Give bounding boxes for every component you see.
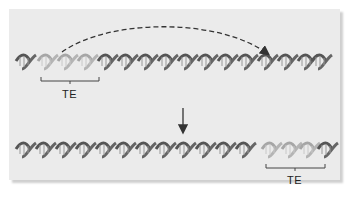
top-te-bracket <box>41 77 99 84</box>
bottom-te-label: TE <box>287 174 302 186</box>
top-dna-strand <box>16 55 332 69</box>
bottom-dna-strand <box>16 143 338 157</box>
top-te-label: TE <box>62 88 77 100</box>
bottom-te-bracket <box>266 164 325 171</box>
transposition-dashed-arrow <box>62 27 268 54</box>
diagram-canvas <box>0 0 362 212</box>
